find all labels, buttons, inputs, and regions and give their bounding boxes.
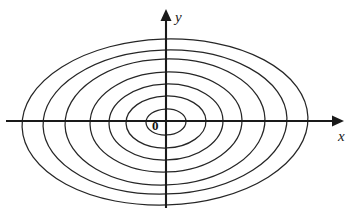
y-axis-arrowhead — [161, 9, 172, 21]
y-axis-label: y — [175, 10, 182, 25]
x-axis-label: x — [338, 129, 345, 144]
x-axis-arrowhead — [332, 116, 344, 127]
origin-label: 0 — [152, 119, 159, 132]
ellipses-diagram — [0, 0, 352, 214]
figure-canvas: y x 0 — [0, 0, 352, 214]
